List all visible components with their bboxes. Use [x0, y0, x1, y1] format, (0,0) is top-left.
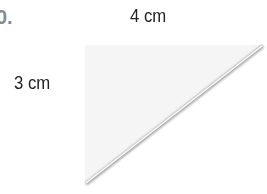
top-side-label: 4 cm — [130, 5, 166, 27]
left-side-label: 3 cm — [14, 72, 50, 94]
right-triangle-figure — [0, 0, 267, 194]
